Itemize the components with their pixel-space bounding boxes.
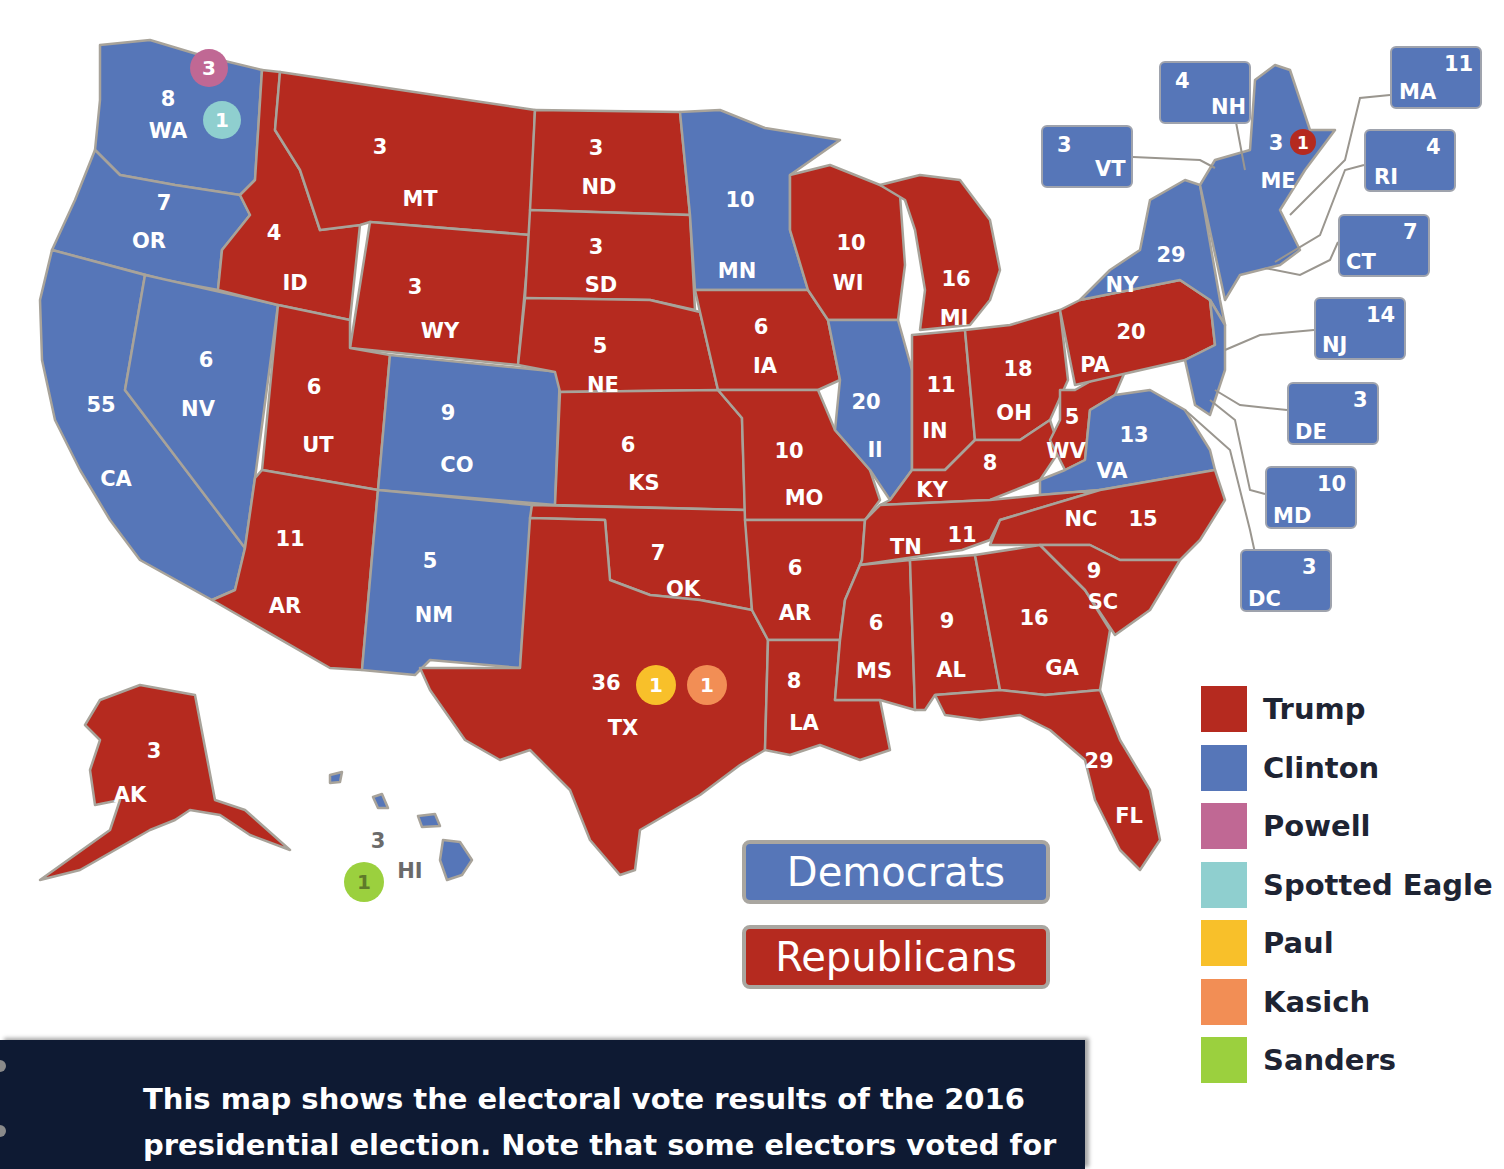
state-co[interactable] (378, 355, 560, 505)
ok-abbr: OK (666, 577, 701, 601)
tx-votes: 36 (591, 671, 620, 695)
callout-nj-abbr: NJ (1322, 333, 1347, 357)
in-abbr: IN (922, 419, 947, 443)
sc-abbr: SC (1088, 590, 1119, 614)
callout-ri-abbr: RI (1374, 165, 1398, 189)
badge-hi-sanders-value: 1 (357, 870, 371, 894)
callout-nj[interactable]: 14 NJ (1314, 297, 1406, 360)
fl-votes: 29 (1084, 749, 1113, 773)
wv-votes: 5 (1065, 405, 1080, 429)
callout-vt-votes: 3 (1057, 133, 1072, 157)
mi-abbr: MI (940, 306, 969, 330)
callout-de[interactable]: 3 DE (1287, 382, 1379, 445)
nm-abbr: NM (415, 603, 453, 627)
callout-ri[interactable]: 4 RI (1364, 129, 1456, 192)
va-votes: 13 (1119, 423, 1148, 447)
state-nm[interactable] (362, 490, 532, 675)
state-nd[interactable] (530, 110, 690, 215)
callout-ma[interactable]: 11 MA (1390, 46, 1482, 109)
legend-label-spotted-eagle: Spotted Eagle (1263, 868, 1493, 902)
callout-nh-votes: 4 (1175, 69, 1190, 93)
leader-nj (1225, 330, 1314, 350)
callout-ri-votes: 4 (1426, 135, 1441, 159)
ut-votes: 6 (307, 375, 322, 399)
legend-item-trump: Trump (1201, 680, 1493, 739)
tn-abbr: TN (890, 535, 922, 559)
wv-abbr: WV (1046, 439, 1086, 463)
legend-swatch-spotted-eagle (1201, 862, 1247, 908)
wy-votes: 3 (408, 275, 423, 299)
democrats-label: Democrats (742, 840, 1050, 904)
ga-abbr: GA (1045, 656, 1079, 680)
nv-abbr: NV (181, 397, 216, 421)
id-votes: 4 (267, 221, 282, 245)
ca-votes: 55 (86, 393, 115, 417)
badge-wa-powell-value: 3 (202, 56, 216, 80)
tx-abbr: TX (608, 716, 639, 740)
callout-de-votes: 3 (1353, 388, 1368, 412)
mi-votes: 16 (941, 267, 970, 291)
ms-abbr: MS (856, 659, 892, 683)
binding-dot (0, 1060, 6, 1072)
candidate-legend: Trump Clinton Powell Spotted Eagle Paul … (1201, 680, 1493, 1090)
callout-ma-abbr: MA (1399, 80, 1436, 104)
leader-vt (1133, 157, 1215, 168)
state-hi-big-island[interactable] (440, 840, 472, 880)
legend-swatch-clinton (1201, 745, 1247, 791)
ak-abbr: AK (114, 783, 147, 807)
ky-abbr: KY (916, 478, 948, 502)
ny-abbr: NY (1106, 273, 1140, 297)
ia-abbr: IA (753, 354, 778, 378)
ga-votes: 16 (1019, 606, 1048, 630)
ut-abbr: UT (302, 433, 334, 457)
hi-votes: 3 (371, 829, 386, 853)
callout-md-abbr: MD (1273, 504, 1311, 528)
state-hi-island-1[interactable] (330, 772, 342, 783)
ks-abbr: KS (628, 471, 659, 495)
legend-item-sanders: Sanders (1201, 1031, 1493, 1090)
legend-swatch-powell (1201, 803, 1247, 849)
mt-votes: 3 (373, 135, 388, 159)
leader-de (1215, 390, 1287, 410)
al-abbr: AL (936, 658, 966, 682)
ne-votes: 5 (593, 334, 608, 358)
state-hi-island-3[interactable] (418, 814, 440, 827)
ny-votes: 29 (1156, 243, 1185, 267)
callout-vt[interactable]: 3 VT (1041, 125, 1133, 188)
callout-de-abbr: DE (1295, 420, 1327, 444)
legend-label-paul: Paul (1263, 926, 1334, 960)
ne-abbr: NE (587, 373, 619, 397)
callout-ct[interactable]: 7 CT (1338, 214, 1430, 277)
sc-votes: 9 (1087, 559, 1102, 583)
callout-dc[interactable]: 3 DC (1240, 549, 1332, 612)
legend-swatch-kasich (1201, 979, 1247, 1025)
legend-item-paul: Paul (1201, 914, 1493, 973)
az-abbr: AR (269, 594, 301, 618)
sd-abbr: SD (585, 273, 618, 297)
wy-abbr: WY (421, 319, 460, 343)
mn-votes: 10 (725, 188, 754, 212)
callout-nh[interactable]: 4 NH (1159, 61, 1251, 124)
nc-votes: 15 (1128, 507, 1157, 531)
la-votes: 8 (787, 669, 802, 693)
binding-dot (0, 1125, 6, 1137)
callout-nj-votes: 14 (1366, 303, 1395, 327)
state-ak[interactable] (40, 685, 290, 880)
callout-md[interactable]: 10 MD (1265, 466, 1357, 529)
legend-label-clinton: Clinton (1263, 751, 1379, 785)
callout-ct-abbr: CT (1346, 250, 1376, 274)
il-abbr: Il (867, 438, 882, 462)
callout-vt-abbr: VT (1095, 157, 1126, 181)
state-wy[interactable] (350, 222, 530, 365)
or-votes: 7 (157, 191, 172, 215)
id-abbr: ID (282, 271, 307, 295)
ar-abbr: AR (779, 601, 811, 625)
mo-votes: 10 (774, 439, 803, 463)
legend-label-sanders: Sanders (1263, 1043, 1396, 1077)
il-votes: 20 (851, 390, 880, 414)
state-hi-island-2[interactable] (373, 794, 388, 808)
ar-votes: 6 (788, 556, 803, 580)
la-abbr: LA (789, 711, 819, 735)
ks-votes: 6 (621, 433, 636, 457)
legend-label-trump: Trump (1263, 692, 1366, 726)
